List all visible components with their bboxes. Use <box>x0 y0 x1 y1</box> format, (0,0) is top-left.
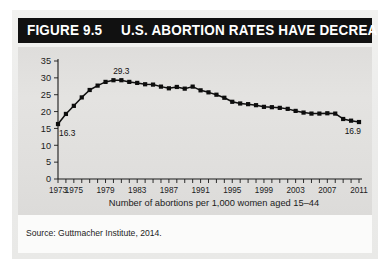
figure-title: U.S. ABORTION RATES HAVE DECREASED <box>121 23 390 38</box>
chart-plot-area: 05101520253035 1973197519791983198719911… <box>18 47 372 215</box>
data-point-marker <box>317 111 321 115</box>
data-point-marker <box>349 119 353 123</box>
x-tick-label: 1995 <box>223 186 242 195</box>
data-point-marker <box>262 105 266 109</box>
data-point-marker <box>80 95 84 99</box>
data-point-marker <box>206 90 210 94</box>
x-tick-label: 1987 <box>160 186 179 195</box>
data-point-annotation: 29.3 <box>113 66 130 76</box>
y-tick-label: 25 <box>41 90 51 100</box>
x-tick-label: 2003 <box>287 186 306 195</box>
data-point-marker <box>238 101 242 105</box>
data-point-marker <box>135 81 139 85</box>
x-axis: 1973197519791983198719911995199920032007… <box>49 179 368 195</box>
y-tick-label: 5 <box>46 157 51 167</box>
x-tick-label: 1991 <box>191 186 210 195</box>
figure-footer: Source: Guttmacher Institute, 2014. <box>18 215 372 253</box>
data-point-marker <box>254 103 258 107</box>
figure-number-label: FIGURE 9.5 <box>27 23 102 38</box>
x-tick-label: 2007 <box>318 186 337 195</box>
data-point-marker <box>103 80 107 84</box>
data-point-marker <box>111 78 115 82</box>
x-tick-label: 1979 <box>96 186 115 195</box>
data-point-marker <box>270 105 274 109</box>
line-chart: 05101520253035 1973197519791983198719911… <box>18 47 372 215</box>
data-point-marker <box>191 85 195 89</box>
data-point-marker <box>198 88 202 92</box>
y-axis: 05101520253035 <box>41 56 58 184</box>
data-point-marker <box>301 110 305 114</box>
data-point-annotation: 16.9 <box>345 126 362 136</box>
data-point-marker <box>167 86 171 90</box>
data-point-marker <box>96 84 100 88</box>
data-point-marker <box>357 120 361 124</box>
figure-card: FIGURE 9.5 U.S. ABORTION RATES HAVE DECR… <box>12 10 378 259</box>
y-tick-label: 20 <box>41 107 51 117</box>
source-citation: Source: Guttmacher Institute, 2014. <box>26 228 162 238</box>
data-point-marker <box>151 83 155 87</box>
y-tick-label: 15 <box>41 124 51 134</box>
data-series-abortion-rate <box>56 78 361 126</box>
data-point-marker <box>341 117 345 121</box>
data-point-marker <box>246 102 250 106</box>
data-point-marker <box>278 106 282 110</box>
data-point-marker <box>286 107 290 111</box>
data-point-marker <box>333 111 337 115</box>
data-point-marker <box>175 85 179 89</box>
x-axis-caption: Number of abortions per 1,000 women aged… <box>109 198 319 208</box>
data-point-marker <box>294 109 298 113</box>
data-point-annotation: 16.3 <box>59 128 76 138</box>
data-point-marker <box>143 82 147 86</box>
x-tick-label: 1975 <box>65 186 84 195</box>
data-point-marker <box>183 87 187 91</box>
data-point-marker <box>64 112 68 116</box>
data-point-marker <box>88 88 92 92</box>
data-point-marker <box>56 122 60 126</box>
data-point-marker <box>230 100 234 104</box>
data-point-marker <box>325 111 329 115</box>
data-point-marker <box>309 111 313 115</box>
data-point-marker <box>127 80 131 84</box>
figure-title-bar: FIGURE 9.5 U.S. ABORTION RATES HAVE DECR… <box>18 18 372 43</box>
x-tick-label: 1983 <box>128 186 147 195</box>
y-tick-label: 35 <box>41 56 51 66</box>
data-point-marker <box>214 93 218 97</box>
y-tick-label: 10 <box>41 141 51 151</box>
data-point-marker <box>72 104 76 108</box>
data-point-marker <box>159 85 163 89</box>
data-point-marker <box>119 78 123 82</box>
data-point-marker <box>222 96 226 100</box>
y-tick-label: 0 <box>46 174 51 184</box>
x-tick-label: 2011 <box>350 186 368 195</box>
x-tick-label: 1999 <box>255 186 274 195</box>
data-annotations: 16.329.316.9 <box>59 66 361 138</box>
y-tick-label: 30 <box>41 73 51 83</box>
